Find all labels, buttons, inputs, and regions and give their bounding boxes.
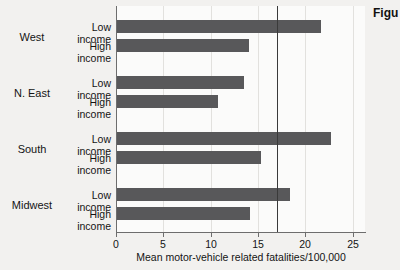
figure-caption: Figu — [373, 6, 398, 20]
gridline-25 — [353, 6, 354, 232]
x-axis-title: Mean motor-vehicle related fatalities/10… — [116, 251, 366, 263]
x-tick-mark-20 — [305, 233, 306, 237]
bar — [117, 132, 331, 145]
bar — [117, 20, 321, 33]
bar — [117, 76, 244, 89]
gridline-20 — [305, 6, 306, 232]
reference-line — [277, 6, 278, 232]
x-tick-label-10: 10 — [196, 238, 226, 250]
bar — [117, 95, 218, 108]
bar — [117, 207, 250, 220]
group-label-west: West — [4, 31, 60, 43]
bar-label-high-income: High income — [55, 152, 111, 176]
x-tick-label-0: 0 — [101, 238, 131, 250]
x-tick-mark-25 — [353, 233, 354, 237]
bar-label-high-income: High income — [55, 40, 111, 64]
x-tick-label-25: 25 — [338, 238, 368, 250]
x-axis-line — [116, 232, 366, 233]
x-tick-mark-5 — [163, 233, 164, 237]
figure-root: Low incomeHigh incomeLow incomeHigh inco… — [0, 0, 400, 270]
bar — [117, 39, 249, 52]
bar-label-high-income: High income — [55, 208, 111, 232]
group-label-midwest: Midwest — [4, 199, 60, 211]
x-tick-mark-15 — [258, 233, 259, 237]
bar-label-high-income: High income — [55, 96, 111, 120]
group-label-south: South — [4, 143, 60, 155]
x-tick-label-5: 5 — [148, 238, 178, 250]
bar — [117, 188, 290, 201]
x-tick-mark-0 — [116, 233, 117, 237]
x-tick-label-20: 20 — [290, 238, 320, 250]
group-label-n-east: N. East — [4, 87, 60, 99]
bar — [117, 151, 261, 164]
x-tick-label-15: 15 — [243, 238, 273, 250]
x-tick-mark-10 — [211, 233, 212, 237]
y-axis-line — [116, 6, 117, 232]
